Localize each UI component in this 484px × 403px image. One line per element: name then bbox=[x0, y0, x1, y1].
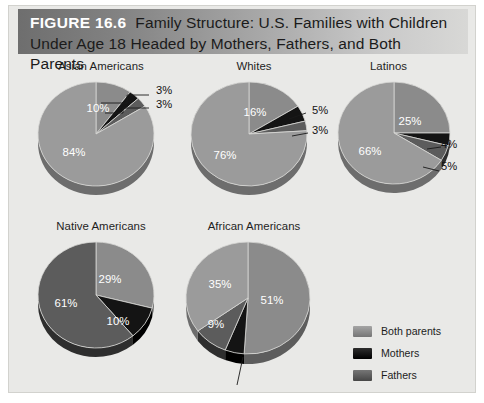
legend-item-fathers: Fathers bbox=[353, 366, 448, 384]
legend-item-both: Both parents bbox=[353, 322, 448, 340]
chart-panel-whites: Whites 16%76% 5% 3% bbox=[184, 60, 324, 220]
pie-svg: 25%66% bbox=[331, 75, 457, 200]
charts-area: Asian Americans 10%84% 3% 3% Whites 16%7… bbox=[9, 54, 475, 392]
pie-top-face bbox=[191, 82, 307, 186]
legend-item-mothers: Mothers bbox=[353, 344, 448, 362]
slice-label-native-mothers: 29% bbox=[99, 273, 122, 285]
figure-number: FIGURE 16.6 bbox=[30, 14, 126, 31]
callout-latinos-fathers: 4% bbox=[441, 138, 457, 150]
legend-swatch-fathers bbox=[353, 370, 372, 381]
legend-label-both: Both parents bbox=[381, 325, 441, 337]
pie-top-face bbox=[38, 82, 154, 186]
pie-top-face bbox=[38, 242, 154, 348]
pie-chart-latinos: 25%66% bbox=[331, 75, 457, 200]
slice-label-native-fathers: 10% bbox=[107, 315, 130, 327]
pie-svg: 16%76% bbox=[184, 75, 314, 202]
chart-panel-african-americans: African Americans 51%35%9% 5% bbox=[179, 220, 329, 393]
callout-whites-neither: 3% bbox=[312, 124, 328, 136]
callout-asian-neither: 3% bbox=[156, 98, 172, 110]
legend-label-fathers: Fathers bbox=[381, 369, 417, 381]
legend-swatch-both bbox=[353, 326, 372, 337]
callout-african-neither: 5% bbox=[221, 392, 237, 393]
chart-title-whites: Whites bbox=[184, 60, 324, 72]
chart-panel-asian-americans: Asian Americans 10%84% 3% 3% bbox=[31, 60, 171, 220]
pie-svg: 51%35%9% bbox=[179, 235, 317, 371]
callout-whites-fathers: 5% bbox=[312, 104, 328, 116]
pie-top-face bbox=[186, 242, 310, 354]
slice-label-asian-both: 84% bbox=[63, 146, 86, 158]
pie-chart-asian-americans: 10%84% bbox=[31, 75, 161, 202]
legend-swatch-neither bbox=[353, 392, 372, 394]
pie-chart-whites: 16%76% bbox=[184, 75, 314, 202]
slice-label-african-mothers: 51% bbox=[261, 294, 284, 306]
pie-chart-african-americans: 51%35%9% bbox=[179, 235, 317, 371]
slice-label-african-fathers: 9% bbox=[208, 318, 224, 330]
legend-item-neither: Neither parent bbox=[353, 388, 448, 393]
slice-label-latinos-mothers: 25% bbox=[399, 115, 422, 127]
chart-title-asian-americans: Asian Americans bbox=[31, 60, 171, 72]
slice-label-asian-mothers: 10% bbox=[87, 102, 110, 114]
pie-svg: 10%84% bbox=[31, 75, 161, 202]
legend-label-mothers: Mothers bbox=[381, 347, 419, 359]
callout-latinos-neither: 5% bbox=[441, 160, 457, 172]
legend: Both parentsMothersFathersNeither parent bbox=[353, 322, 448, 393]
chart-title-african-americans: African Americans bbox=[179, 220, 329, 232]
slice-label-whites-both: 76% bbox=[214, 149, 237, 161]
callout-asian-fathers: 3% bbox=[156, 84, 172, 96]
legend-label-neither: Neither parent bbox=[381, 391, 448, 393]
slice-label-african-both: 35% bbox=[209, 278, 232, 290]
figure-container: FIGURE 16.6Family Structure: U.S. Famili… bbox=[8, 5, 476, 393]
chart-title-native-americans: Native Americans bbox=[31, 220, 171, 232]
pie-svg: 29%10%61% bbox=[31, 235, 161, 364]
chart-title-latinos: Latinos bbox=[331, 60, 446, 72]
legend-swatch-mothers bbox=[353, 348, 372, 359]
chart-panel-native-americans: Native Americans 29%10%61% bbox=[31, 220, 171, 390]
slice-label-whites-mothers: 16% bbox=[244, 106, 267, 118]
pie-chart-native-americans: 29%10%61% bbox=[31, 235, 161, 364]
slice-label-latinos-both: 66% bbox=[359, 145, 382, 157]
figure-caption-bar: FIGURE 16.6Family Structure: U.S. Famili… bbox=[18, 9, 468, 54]
pie-top-face bbox=[338, 82, 450, 184]
slice-label-native-both: 61% bbox=[55, 297, 78, 309]
chart-panel-latinos: Latinos 25%66% 4% 5% bbox=[331, 60, 471, 220]
